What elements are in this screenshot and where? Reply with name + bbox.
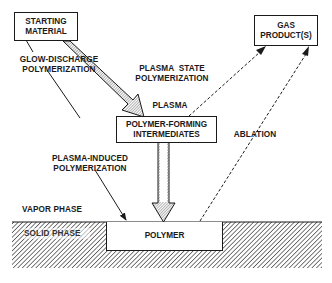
vapor-phase-label: VAPOR PHASE (22, 205, 92, 215)
gas-products-line2: PRODUCT(S) (260, 31, 311, 41)
gas-products-line1: GAS (260, 21, 311, 31)
ablation-text: ABLATION (234, 130, 277, 139)
plasma-induced-line1: PLASMA-INDUCED (45, 154, 135, 164)
glow-discharge-line1: GLOW-DISCHARGE (14, 55, 104, 65)
solid-phase-text: SOLID PHASE (24, 229, 81, 238)
plasma-induced-label: PLASMA-INDUCED POLYMERIZATION (45, 154, 135, 174)
glow-discharge-line2: POLYMERIZATION (14, 65, 104, 75)
starting-material-box: STARTING MATERIAL (14, 12, 78, 41)
plasma-state-label: PLASMA STATE POLYMERIZATION (127, 64, 217, 84)
plasma-induced-line2: POLYMERIZATION (45, 164, 135, 174)
vapor-phase-text: VAPOR PHASE (22, 205, 82, 214)
polymer-label: POLYMER (145, 231, 185, 241)
solid-phase-label: SOLID PHASE (24, 229, 94, 239)
plasma-state-line1: PLASMA STATE (127, 64, 217, 74)
gas-products-box: GAS PRODUCT(S) (254, 15, 318, 46)
glow-discharge-label: GLOW-DISCHARGE POLYMERIZATION (14, 55, 104, 75)
starting-material-line2: MATERIAL (25, 27, 67, 37)
edge-intermediates-to-polymer-arrow (152, 142, 175, 222)
plasma-label: PLASMA (150, 101, 190, 111)
polymer-forming-intermediates-box: POLYMER-FORMING INTERMEDIATES (116, 116, 217, 143)
polymer-box: POLYMER (106, 222, 223, 251)
plasma-state-line2: POLYMERIZATION (127, 74, 217, 84)
intermediates-line2: INTERMEDIATES (126, 130, 207, 140)
ablation-label: ABLATION (230, 130, 280, 140)
intermediates-line1: POLYMER-FORMING (126, 120, 207, 130)
plasma-text: PLASMA (152, 101, 187, 110)
starting-material-line1: STARTING (25, 17, 67, 27)
